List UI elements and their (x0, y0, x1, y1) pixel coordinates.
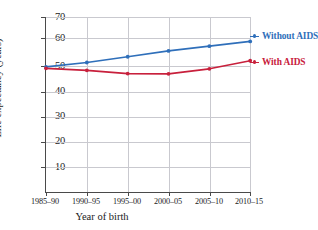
x-tick-label-1990-95: 1990–95 (72, 197, 100, 206)
x-tick-label-2010-15: 2010–15 (235, 197, 263, 206)
legend-item-with-aids: With AIDS (250, 57, 305, 67)
data-point (85, 61, 89, 65)
x-tick-label-1995-00: 1995–00 (113, 197, 141, 206)
line-without-aids (46, 41, 250, 66)
data-point (126, 72, 130, 76)
cropped-title-remnant (60, 0, 200, 5)
x-tick-label-1985-90: 1985–90 (31, 197, 59, 206)
y-axis-title: Life expectancy (years) (0, 0, 3, 183)
x-tick-label-2000-05: 2000–05 (154, 197, 182, 206)
legend-label-with-aids: With AIDS (262, 57, 305, 67)
legend-item-without-aids: Without AIDS (250, 31, 318, 41)
data-point (207, 67, 211, 71)
data-point (44, 66, 48, 70)
data-point (167, 72, 171, 76)
x-axis-title: Year of birth (75, 211, 128, 222)
chart-figure: 70 60 50 40 30 20 10 Life expectancy (ye… (0, 0, 318, 230)
plot-area (45, 17, 250, 193)
legend-label-without-aids: Without AIDS (262, 31, 318, 41)
legend-line-marker-icon (250, 58, 259, 67)
data-point (207, 44, 211, 48)
data-point (167, 49, 171, 53)
data-point (85, 68, 89, 72)
legend-line-marker-icon (250, 32, 259, 41)
data-point (126, 55, 130, 59)
line-with-aids (46, 61, 250, 74)
series-layer (46, 17, 251, 193)
x-tick-label-2005-10: 2005–10 (195, 197, 223, 206)
